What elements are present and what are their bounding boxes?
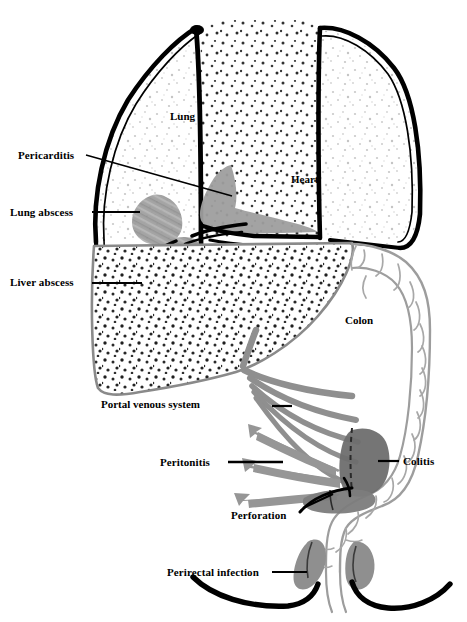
callout-label-colitis: Colitis [403,455,434,467]
organ-label-portal-venous-system: Portal venous system [101,398,200,410]
callout-label-perirectal-infection: Perirectal infection [167,566,259,578]
callout-label-peritonitis: Peritonitis [160,456,210,468]
callout-label-liver-abscess: Liver abscess [10,276,74,288]
organ-label-colon: Colon [345,314,373,326]
perirectal-mass-left [294,540,326,590]
anatomy-illustration [0,0,467,622]
callout-label-pericarditis: Pericarditis [18,149,74,161]
callout-label-lung-abscess: Lung abscess [10,206,73,218]
callout-label-perforation: Perforation [231,509,286,521]
liver [92,243,353,395]
organ-label-lung: Lung [170,110,195,122]
perineum-outline [193,577,450,608]
organ-label-heart: Heart [291,173,318,185]
figure-canvas: Lung Heart Colon Portal venous system Pe… [0,0,467,622]
lung-right [318,28,420,248]
